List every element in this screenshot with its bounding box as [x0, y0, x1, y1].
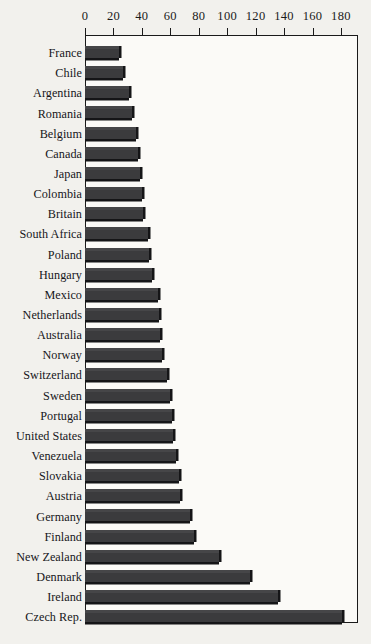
- chart-row: Finland: [0, 527, 371, 547]
- bar: [85, 489, 180, 501]
- bar-highlight: [85, 530, 194, 533]
- category-label: Slovakia: [39, 469, 82, 484]
- bar: [85, 409, 172, 421]
- bar-highlight: [85, 106, 132, 109]
- bar-highlight: [85, 550, 219, 553]
- category-label: Hungary: [39, 267, 82, 282]
- x-tick-160: [313, 28, 314, 36]
- bar: [85, 227, 148, 239]
- bar: [85, 550, 219, 562]
- bar-highlight: [85, 509, 190, 512]
- bar: [85, 530, 194, 542]
- category-label: Romania: [38, 106, 82, 121]
- category-label: Australia: [37, 328, 82, 343]
- bar-highlight: [85, 590, 278, 593]
- category-label: Britain: [48, 207, 82, 222]
- bar-highlight: [85, 86, 129, 89]
- bar: [85, 268, 152, 280]
- category-label: Argentina: [33, 86, 82, 101]
- chart-row: United States: [0, 426, 371, 446]
- x-tick-label: 180: [331, 9, 351, 24]
- x-tick-0: [85, 28, 86, 36]
- bar-chart: 020406080100120140160180 FranceChileArge…: [0, 0, 371, 644]
- bar-highlight: [85, 187, 142, 190]
- bar-highlight: [85, 227, 148, 230]
- bar-highlight: [85, 368, 167, 371]
- bar: [85, 308, 159, 320]
- category-label: Japan: [54, 166, 82, 181]
- x-tick-label: 0: [82, 9, 89, 24]
- category-label: United States: [16, 428, 82, 443]
- chart-row: Australia: [0, 325, 371, 345]
- bar-highlight: [85, 207, 143, 210]
- category-label: New Zealand: [16, 549, 82, 564]
- x-tick-40: [142, 28, 143, 36]
- bar: [85, 127, 136, 139]
- category-label: Poland: [48, 247, 82, 262]
- bar: [85, 86, 129, 98]
- category-label: France: [49, 46, 82, 61]
- chart-row: Portugal: [0, 406, 371, 426]
- x-tick-label: 120: [246, 9, 266, 24]
- category-label: Belgium: [40, 126, 82, 141]
- bar-highlight: [85, 348, 162, 351]
- bar: [85, 167, 140, 179]
- category-label: Austria: [46, 489, 82, 504]
- x-tick-60: [170, 28, 171, 36]
- bar-highlight: [85, 328, 160, 331]
- chart-row: Belgium: [0, 124, 371, 144]
- chart-row: Denmark: [0, 567, 371, 587]
- category-label: Netherlands: [23, 308, 82, 323]
- category-label: Sweden: [43, 388, 82, 403]
- bar-highlight: [85, 308, 159, 311]
- x-tick-100: [227, 28, 228, 36]
- bar-highlight: [85, 409, 172, 412]
- chart-row: Norway: [0, 345, 371, 365]
- bar: [85, 46, 119, 58]
- category-label: Canada: [45, 146, 82, 161]
- category-label: Chile: [55, 66, 82, 81]
- x-tick-label: 80: [192, 9, 205, 24]
- bar-highlight: [85, 610, 342, 613]
- chart-row: South Africa: [0, 224, 371, 244]
- category-label: South Africa: [19, 227, 82, 242]
- bar: [85, 570, 250, 582]
- chart-row: Hungary: [0, 265, 371, 285]
- bar-highlight: [85, 167, 140, 170]
- bar-highlight: [85, 127, 136, 130]
- bar: [85, 288, 158, 300]
- category-label: Switzerland: [23, 368, 82, 383]
- bar-highlight: [85, 66, 123, 69]
- bar-highlight: [85, 449, 176, 452]
- chart-row: Chile: [0, 63, 371, 83]
- x-tick-label: 160: [303, 9, 323, 24]
- x-tick-label: 100: [217, 9, 237, 24]
- bar: [85, 449, 176, 461]
- chart-row: Mexico: [0, 285, 371, 305]
- bar-highlight: [85, 489, 180, 492]
- bar: [85, 106, 132, 118]
- chart-row: Argentina: [0, 83, 371, 103]
- chart-row: Czech Rep.: [0, 607, 371, 627]
- chart-row: Romania: [0, 103, 371, 123]
- bar-highlight: [85, 248, 149, 251]
- category-label: Denmark: [36, 569, 82, 584]
- bar: [85, 66, 123, 78]
- x-axis-line: [85, 35, 358, 36]
- category-label: Finland: [44, 529, 82, 544]
- bar: [85, 187, 142, 199]
- chart-row: Venezuela: [0, 446, 371, 466]
- x-tick-label: 40: [135, 9, 148, 24]
- bar-highlight: [85, 147, 138, 150]
- bar: [85, 590, 278, 602]
- category-label: Mexico: [44, 287, 82, 302]
- bar-highlight: [85, 46, 119, 49]
- bar-highlight: [85, 570, 250, 573]
- bar: [85, 389, 170, 401]
- x-tick-140: [284, 28, 285, 36]
- chart-row: Ireland: [0, 587, 371, 607]
- category-label: Germany: [36, 509, 82, 524]
- x-tick-20: [113, 28, 114, 36]
- chart-row: Britain: [0, 204, 371, 224]
- category-label: Ireland: [47, 590, 82, 605]
